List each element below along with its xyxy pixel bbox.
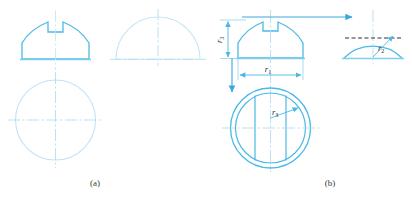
panel-b-group: r3 r1 r3	[214, 10, 404, 188]
technical-drawing-figure: (a) r3 r	[0, 0, 412, 201]
panel-a-side-view	[110, 9, 206, 66]
panel-b-top-view: r3	[222, 88, 320, 168]
dim-label-r2-radial: r2	[378, 43, 384, 54]
engineering-drawing-canvas: (a) r3 r	[0, 0, 412, 201]
dim-label-r3-vertical: r3	[214, 37, 225, 43]
caption-panel-b: (b)	[325, 178, 336, 188]
dimension-r3-vertical: r3	[214, 20, 246, 59]
panel-a-group: (a)	[8, 9, 206, 188]
dim-label-r3-radial: r3	[272, 107, 278, 118]
caption-panel-a: (a)	[90, 178, 100, 188]
panel-b-front-view	[236, 10, 305, 172]
panel-b-side-view: r2	[342, 10, 404, 66]
panel-a-top-view	[8, 72, 103, 168]
panel-a-front-view	[20, 10, 91, 70]
